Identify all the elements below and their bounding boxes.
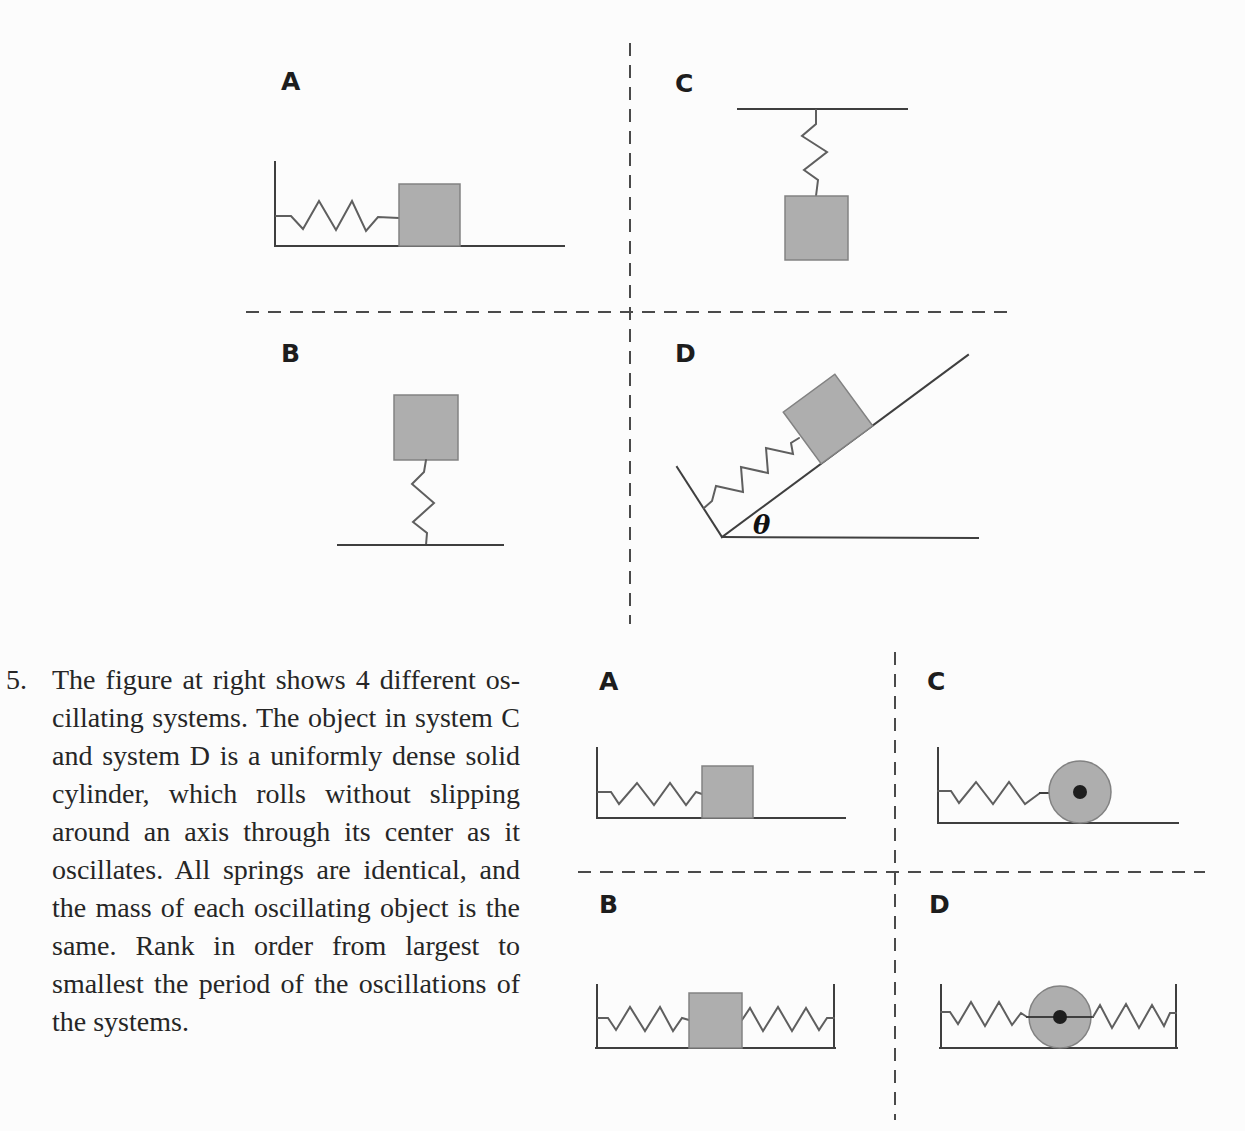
spring [276, 201, 399, 231]
spring [938, 782, 1040, 804]
system-label: A [281, 67, 301, 96]
angle-label: θ [753, 510, 771, 540]
mass-block [689, 993, 742, 1048]
textbook-page: A C B D [0, 0, 1245, 1131]
top-system-d: D θ [675, 339, 978, 540]
problem-text-line: The figure at right shows 4 different os… [52, 661, 520, 699]
system-label: D [929, 890, 950, 919]
system-label: C [927, 667, 945, 696]
spring [412, 460, 434, 545]
system-label: B [599, 890, 618, 919]
bottom-system-a: A [597, 667, 845, 818]
mass-block [783, 374, 872, 463]
left-spring [598, 1007, 689, 1031]
bottom-system-c: C [927, 667, 1178, 823]
problem-text-line: the mass of each oscillating object is t… [52, 889, 520, 927]
axle-dot [1053, 1010, 1067, 1024]
right-spring [742, 1007, 834, 1031]
figure-bottom: A C B [578, 652, 1205, 1120]
problem-number: 5. [6, 661, 27, 699]
system-label: C [675, 69, 693, 98]
spring [598, 783, 702, 805]
problem-text-line: the systems. [52, 1003, 520, 1041]
problem-text-line: cillating systems. The object in system … [52, 699, 520, 737]
figure-top: A C B D [246, 43, 1010, 624]
system-label: B [281, 339, 300, 368]
top-system-b: B [281, 339, 503, 545]
problem-text-line: smallest the period of the oscillations … [52, 965, 520, 1003]
top-system-a: A [275, 67, 564, 246]
problem-text-line: cylinder, which rolls without slipping [52, 775, 520, 813]
spring [704, 438, 799, 508]
axle-dot [1073, 785, 1087, 799]
mass-block [394, 395, 458, 460]
top-system-c: C [675, 69, 907, 260]
problem-text-line: and system D is a uniformly dense solid [52, 737, 520, 775]
system-label: D [675, 339, 696, 368]
problem-text-line: same. Rank in order from largest to [52, 927, 520, 965]
incline-wall-line [677, 467, 722, 537]
mass-block [702, 766, 753, 818]
bottom-system-b: B [596, 890, 835, 1048]
problem-text-line: oscillates. All springs are identical, a… [52, 851, 520, 889]
right-spring [1093, 1004, 1176, 1028]
bottom-system-d: D [929, 890, 1177, 1048]
left-spring [941, 1002, 1027, 1026]
problem-statement: The figure at right shows 4 different os… [52, 661, 520, 1041]
problem-text-line: around an axis through its center as it [52, 813, 520, 851]
system-label: A [599, 667, 619, 696]
mass-block [399, 184, 460, 246]
spring [802, 110, 827, 196]
mass-block [785, 196, 848, 260]
